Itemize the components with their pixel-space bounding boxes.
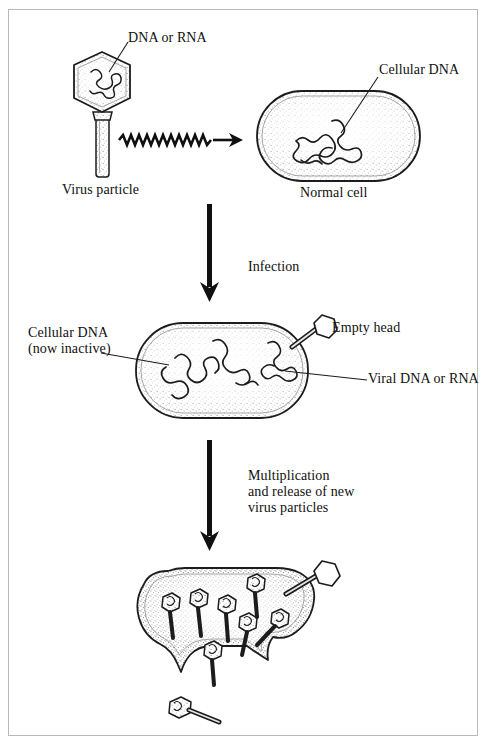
label-normal-cell: Normal cell <box>300 185 368 201</box>
empty-head-virus <box>292 315 337 347</box>
figure-canvas: DNA or RNA Virus particle Cellular DNA N… <box>0 0 491 753</box>
label-cellular-dna: Cellular DNA <box>379 62 459 78</box>
infection-arrow <box>200 204 219 302</box>
wavy-arrow <box>119 133 243 147</box>
infected-cell <box>136 323 308 418</box>
label-cellular-dna-inactive: Cellular DNA (now inactive) <box>28 325 111 357</box>
label-empty-head: Empty head <box>332 320 400 336</box>
label-dna-or-rna: DNA or RNA <box>128 30 207 46</box>
progeny-virion <box>204 641 222 685</box>
label-virus-particle: Virus particle <box>62 182 139 198</box>
virus-particle <box>74 52 130 177</box>
normal-cell <box>257 91 420 181</box>
label-infection: Infection <box>248 259 299 275</box>
released-virion <box>169 697 219 722</box>
label-multiplication: Multiplication and release of new virus … <box>248 468 354 516</box>
multiplication-arrow <box>200 440 219 551</box>
label-viral-dna-or-rna: Viral DNA or RNA <box>368 371 479 387</box>
lysing-cell <box>137 561 340 685</box>
